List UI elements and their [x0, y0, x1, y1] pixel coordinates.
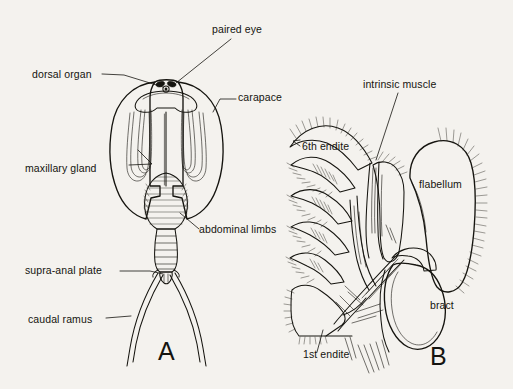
panel-letter-a: A: [158, 337, 175, 365]
label-maxillary-gland: maxillary gland: [25, 162, 97, 174]
label-supra-anal-plate: supra-anal plate: [25, 264, 102, 276]
canvas-background: [0, 0, 513, 389]
label-dorsal-organ: dorsal organ: [32, 68, 92, 80]
label-intrinsic-muscle: intrinsic muscle: [363, 78, 436, 90]
label-carapace: carapace: [238, 91, 282, 103]
label-flabellum: flabellum: [419, 178, 462, 190]
label-abdominal-limbs: abdominal limbs: [199, 223, 276, 235]
dorsal-organ-core: [165, 88, 167, 90]
panel-letter-b: B: [430, 342, 447, 370]
label-caudal-ramus: caudal ramus: [28, 313, 92, 325]
label-6th-endite: 6th endite: [302, 140, 349, 152]
label-paired-eye: paired eye: [212, 23, 262, 35]
illustration-canvas: paired eye dorsal organ carapace maxilla…: [0, 0, 513, 389]
label-bract: bract: [430, 299, 454, 311]
figure-illustration: paired eye dorsal organ carapace maxilla…: [0, 0, 513, 389]
label-1st-endite: 1st endite: [303, 348, 350, 360]
